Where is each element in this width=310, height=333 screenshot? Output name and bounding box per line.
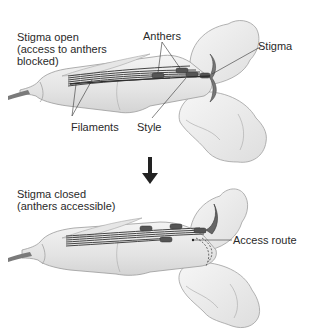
caption-stigma-closed: Stigma closed (anthers accessible) [17,188,115,212]
label-anthers: Anthers [143,30,181,42]
stem [8,90,30,100]
label-access-route: Access route [233,234,297,246]
caption-line: Stigma closed [17,188,115,200]
caption-line: (anthers accessible) [17,200,115,212]
caption-line: (access to anthers [17,43,107,55]
label-stigma: Stigma [258,40,292,52]
label-filaments: Filaments [71,121,119,133]
down-arrow-icon [142,157,158,184]
caption-line: blocked) [17,55,107,67]
caption-line: Stigma open [17,31,107,43]
lower-petal [179,92,266,163]
label-style: Style [137,121,161,133]
caption-stigma-open: Stigma open (access to anthers blocked) [17,31,107,67]
